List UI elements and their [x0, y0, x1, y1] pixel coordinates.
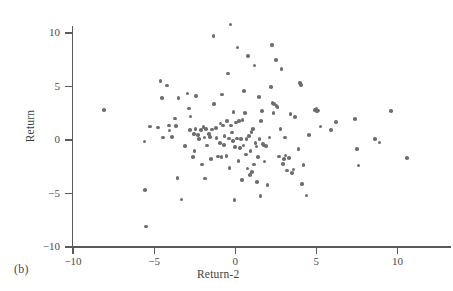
scatter-point: [252, 163, 256, 167]
y-tick-label: −5: [26, 187, 60, 199]
scatter-point: [240, 178, 244, 182]
y-tick-mark: [65, 86, 72, 87]
scatter-point: [200, 163, 204, 167]
scatter-point: [143, 140, 147, 144]
scatter-point: [246, 54, 250, 58]
scatter-point: [281, 162, 285, 166]
scatter-point: [329, 128, 333, 132]
scatter-point: [226, 72, 230, 76]
scatter-point: [243, 111, 247, 115]
scatter-point: [170, 135, 174, 139]
x-tick-label: 10: [382, 255, 412, 267]
scatter-point: [249, 149, 253, 153]
scatter-point: [197, 137, 201, 141]
y-tick-mark: [65, 246, 72, 247]
scatter-point: [218, 141, 222, 145]
scatter-point: [389, 109, 393, 113]
scatter-point: [192, 132, 196, 136]
x-tick-mark: [72, 247, 73, 254]
scatter-point: [280, 67, 284, 71]
scatter-point: [255, 145, 259, 149]
x-axis-label: Return-2: [197, 268, 239, 280]
scatter-point: [334, 120, 338, 124]
scatter-point: [260, 109, 264, 113]
scatter-point: [167, 124, 171, 128]
scatter-point: [305, 194, 309, 198]
scatter-point: [230, 131, 234, 135]
scatter-point: [212, 34, 216, 38]
scatter-point: [229, 124, 233, 128]
scatter-point: [203, 177, 207, 181]
scatter-point: [214, 126, 218, 130]
scatter-point: [193, 149, 197, 153]
scatter-point: [250, 170, 254, 174]
scatter-point: [221, 124, 225, 128]
scatter-point: [253, 64, 257, 68]
y-tick-label: 10: [26, 26, 60, 38]
scatter-point: [236, 46, 240, 50]
scatter-point: [203, 136, 207, 140]
scatter-point: [238, 146, 242, 150]
scatter-point: [241, 118, 245, 122]
scatter-point: [264, 144, 268, 148]
scatter-point: [250, 130, 254, 134]
scatter-point: [269, 85, 273, 89]
scatter-point: [156, 126, 160, 130]
scatter-point: [165, 84, 169, 88]
scatter-point: [258, 137, 262, 141]
scatter-point: [292, 168, 296, 172]
scatter-point: [259, 119, 263, 123]
scatter-point: [246, 167, 250, 171]
scatter-point: [177, 96, 181, 100]
x-tick-mark: [235, 247, 236, 254]
scatter-point: [257, 95, 261, 99]
scatter-point: [174, 124, 178, 128]
scatter-point: [194, 94, 198, 98]
scatter-point: [244, 153, 248, 157]
x-tick-label: 5: [301, 255, 331, 267]
scatter-point: [285, 169, 289, 173]
scatter-point: [168, 129, 172, 133]
x-tick-label: −5: [139, 255, 169, 267]
scatter-point: [210, 128, 214, 132]
scatter-point: [223, 134, 227, 138]
scatter-point: [276, 105, 280, 109]
y-tick-mark: [65, 193, 72, 194]
scatter-point: [215, 136, 219, 140]
scatter-point: [220, 155, 224, 159]
scatter-point: [277, 155, 281, 159]
scatter-point: [148, 125, 152, 129]
scatter-point: [186, 92, 190, 96]
scatter-point: [232, 110, 236, 114]
scatter-figure: (b) −10−50510 −10−50510 Return Return-2: [0, 0, 453, 291]
scatter-point: [212, 102, 216, 106]
scatter-point: [283, 136, 287, 140]
scatter-point: [209, 157, 213, 161]
scatter-point: [231, 139, 235, 143]
scatter-point: [160, 96, 164, 100]
scatter-point: [355, 147, 359, 151]
scatter-point: [297, 147, 301, 151]
x-tick-mark: [154, 247, 155, 254]
scatter-point: [272, 111, 276, 115]
scatter-point: [205, 144, 209, 148]
scatter-point: [259, 194, 263, 198]
scatter-point: [227, 137, 231, 141]
scatter-point: [225, 154, 229, 158]
scatter-point: [353, 117, 357, 121]
scatter-point: [263, 160, 267, 164]
scatter-point: [268, 136, 272, 140]
scatter-point: [279, 127, 283, 131]
scatter-point: [405, 156, 409, 160]
scatter-point: [319, 125, 323, 129]
scatter-point: [287, 156, 291, 160]
scatter-point: [180, 198, 184, 202]
scatter-point: [239, 137, 243, 141]
scatter-point: [144, 225, 148, 229]
y-tick-mark: [65, 139, 72, 140]
scatter-points: [73, 33, 451, 247]
scatter-point: [189, 115, 193, 119]
scatter-point: [357, 164, 361, 168]
scatter-point: [274, 58, 278, 62]
scatter-point: [187, 107, 191, 111]
